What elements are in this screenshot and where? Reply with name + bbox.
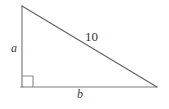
figure-background (0, 0, 169, 109)
label-hypotenuse: 10 (85, 30, 98, 43)
triangle-drawing (0, 0, 169, 109)
label-horizontal-leg: b (77, 88, 83, 100)
right-triangle-figure: a b 10 (0, 0, 169, 109)
label-vertical-leg: a (11, 42, 17, 54)
